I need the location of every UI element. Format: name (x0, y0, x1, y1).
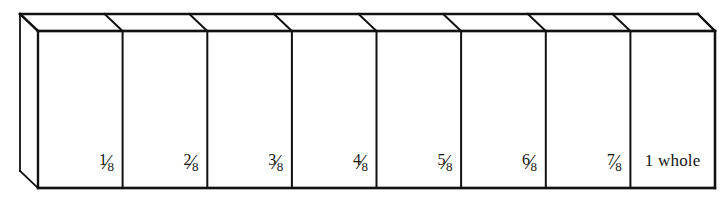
fraction-bar-figure: 1⁄8 2⁄8 3⁄8 4⁄8 5⁄8 6⁄8 (0, 0, 728, 205)
left-side-face (20, 14, 38, 188)
fraction-bar-drawing (0, 0, 728, 205)
